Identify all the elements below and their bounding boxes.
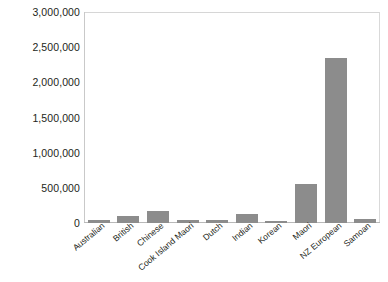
bar-slot [147, 12, 169, 223]
x-tick-label-text: Dutch [202, 221, 225, 242]
y-tick-label: 1,500,000 [4, 113, 80, 124]
x-tick-label-text: Cook Island Maori [136, 221, 195, 272]
y-axis-tick-labels: 3,000,0002,500,0002,000,0001,500,0001,00… [0, 0, 80, 282]
x-tick-label-text: Korean [257, 221, 284, 245]
bar-slot [236, 12, 258, 223]
y-tick-label: 1,000,000 [4, 148, 80, 159]
x-tick-label-text: Maori [291, 221, 313, 241]
x-tick-label-text: Indian [231, 221, 254, 243]
bar-chart: 3,000,0002,500,0002,000,0001,500,0001,00… [0, 0, 388, 282]
y-tick-label: 500,000 [4, 183, 80, 194]
bar-slot [88, 12, 110, 223]
y-tick-label: 0 [4, 218, 80, 229]
x-axis-tick-labels: AustralianBritishChineseCook Island Maor… [84, 223, 388, 282]
bar-slot [295, 12, 317, 223]
bar-slot [265, 12, 287, 223]
y-tick-label: 2,000,000 [4, 77, 80, 88]
bar-slot [325, 12, 347, 223]
bar-slot [117, 12, 139, 223]
y-tick-label: 2,500,000 [4, 42, 80, 53]
y-tick-label: 3,000,000 [4, 7, 80, 18]
bar-nz-european[interactable] [325, 58, 347, 223]
bar-slot [177, 12, 199, 223]
x-tick-label-text: Samoan [342, 221, 372, 248]
x-tick-label-text: British [112, 221, 136, 243]
